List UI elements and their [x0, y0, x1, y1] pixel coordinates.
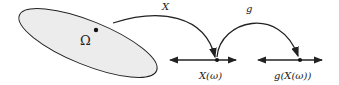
x-omega-point: [215, 58, 219, 62]
diagram-canvas: Ω X X(ω) g g(X(ω)): [0, 0, 339, 85]
sample-space-label: Ω: [80, 33, 91, 48]
map-g-arrow: [217, 23, 298, 57]
g-x-omega-label: g(X(ω)): [274, 70, 311, 81]
x-omega-label: X(ω): [198, 70, 222, 81]
map-x-label: X: [161, 1, 170, 12]
omega-point: [94, 28, 98, 32]
map-g-label: g: [246, 3, 252, 14]
g-x-omega-point: [298, 58, 302, 62]
